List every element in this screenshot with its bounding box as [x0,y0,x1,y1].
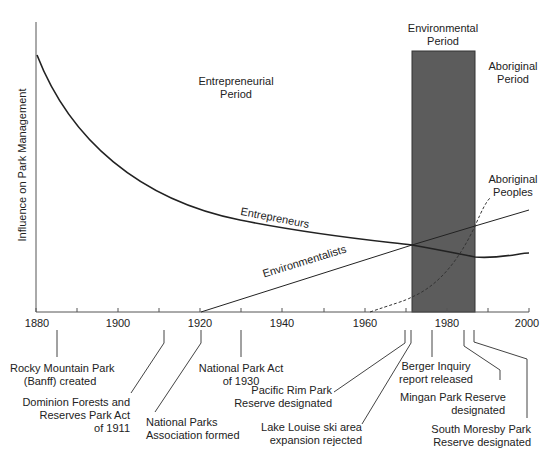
environmentalists-line [201,210,529,312]
event-south-moresby: South Moresby Park Reserve designated [420,423,531,449]
tick-1980: 1980 [435,317,459,329]
event-npa-formed: National Parks Association formed [146,416,240,442]
tick-1960: 1960 [353,317,377,329]
event-dominion-act: Dominion Forests and Reserves Park Act o… [10,396,130,435]
tick-1900: 1900 [106,317,130,329]
aboriginal-peoples-label: Aboriginal Peoples [478,173,548,199]
environmental-period-bar [412,51,475,312]
environmental-period-label: Environmental Period [400,22,486,48]
aboriginal-period-label: Aboriginal Period [478,60,548,86]
tick-2000: 2000 [515,317,539,329]
tick-1920: 1920 [188,317,212,329]
event-lake-louise: Lake Louise ski area expansion rejected [240,421,362,447]
entrepreneurial-period-label: Entrepreneurial Period [196,75,276,101]
event-banff: Rocky Mountain Park (Banff) created [10,362,110,388]
event-mingan: Mingan Park Reserve designated [400,391,505,417]
tick-1940: 1940 [270,317,294,329]
y-axis-label: Influence on Park Management [16,89,28,242]
tick-1880: 1880 [25,317,49,329]
event-pacific-rim: Pacific Rim Park Reserve designated [220,384,332,410]
event-berger-inquiry: Berger Inquiry report released [396,360,476,386]
